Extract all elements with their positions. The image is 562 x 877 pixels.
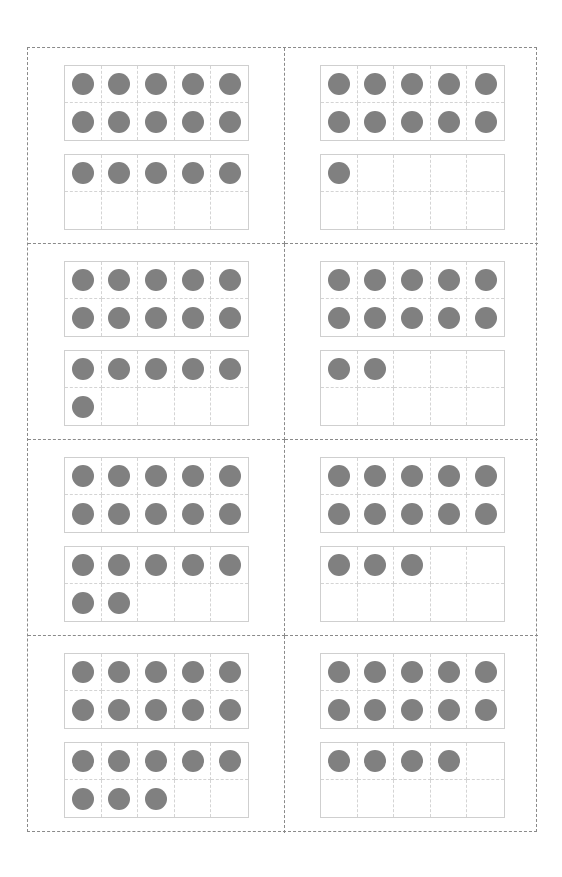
counter-dot-icon <box>219 750 241 772</box>
counter-dot-icon <box>401 307 423 329</box>
ten-frame-cell <box>358 743 395 780</box>
counter-dot-icon <box>145 162 167 184</box>
ten-frame-cell <box>321 66 358 103</box>
ten-frame-cell <box>65 495 102 532</box>
ten-frame-cell <box>321 299 358 336</box>
ten-frame-cell <box>394 743 431 780</box>
counter-dot-icon <box>328 358 350 380</box>
counter-dot-icon <box>364 699 386 721</box>
ten-frame <box>320 154 505 230</box>
ten-frame-cell <box>175 780 212 817</box>
ten-frame-cell <box>467 103 504 140</box>
ten-frame <box>320 457 505 533</box>
ten-frame-cell <box>65 351 102 388</box>
ten-frame-cell <box>102 495 139 532</box>
counter-dot-icon <box>219 111 241 133</box>
counter-dot-icon <box>364 269 386 291</box>
ten-frame-card <box>285 636 538 833</box>
ten-frame-cell <box>431 299 468 336</box>
counter-dot-icon <box>108 269 130 291</box>
counter-dot-icon <box>438 307 460 329</box>
ten-frame-cell <box>138 351 175 388</box>
counter-dot-icon <box>108 503 130 525</box>
counter-dot-icon <box>219 503 241 525</box>
ten-frame-cell <box>321 155 358 192</box>
ten-frame-cell <box>211 743 248 780</box>
ten-frame-cell <box>211 262 248 299</box>
counter-dot-icon <box>145 661 167 683</box>
ten-frame-cell <box>138 66 175 103</box>
counter-dot-icon <box>364 503 386 525</box>
counter-dot-icon <box>438 73 460 95</box>
counter-dot-icon <box>72 699 94 721</box>
ten-frame-cell <box>467 780 504 817</box>
ten-frame-cell <box>211 584 248 621</box>
ten-frame-cell <box>175 155 212 192</box>
counter-dot-icon <box>145 788 167 810</box>
counter-dot-icon <box>328 750 350 772</box>
counter-dot-icon <box>438 699 460 721</box>
ten-frame-cell <box>211 103 248 140</box>
ten-frame-cell <box>431 155 468 192</box>
ten-frame-cell <box>321 654 358 691</box>
counter-dot-icon <box>108 73 130 95</box>
counter-dot-icon <box>182 465 204 487</box>
ten-frame-cell <box>102 584 139 621</box>
ten-frame-cell <box>65 547 102 584</box>
ten-frame-cell <box>431 780 468 817</box>
ten-frame-card <box>285 244 538 440</box>
ten-frame-cell <box>175 584 212 621</box>
counter-dot-icon <box>438 661 460 683</box>
ten-frame-cell <box>211 547 248 584</box>
counter-dot-icon <box>438 111 460 133</box>
counter-dot-icon <box>219 307 241 329</box>
counter-dot-icon <box>328 162 350 184</box>
ten-frame-cell <box>358 299 395 336</box>
ten-frame-cell <box>321 351 358 388</box>
ten-frame-cell <box>321 103 358 140</box>
counter-dot-icon <box>364 111 386 133</box>
counter-dot-icon <box>182 358 204 380</box>
counter-dot-icon <box>108 661 130 683</box>
counter-dot-icon <box>145 358 167 380</box>
counter-dot-icon <box>401 661 423 683</box>
ten-frame-cell <box>358 691 395 728</box>
counter-dot-icon <box>475 73 497 95</box>
counter-dot-icon <box>145 750 167 772</box>
ten-frame <box>320 350 505 426</box>
ten-frame-cell <box>467 654 504 691</box>
counter-dot-icon <box>72 465 94 487</box>
ten-frame-cell <box>321 495 358 532</box>
ten-frame-cell <box>467 192 504 229</box>
ten-frame-cell <box>211 155 248 192</box>
counter-dot-icon <box>182 554 204 576</box>
counter-dot-icon <box>72 111 94 133</box>
counter-dot-icon <box>438 503 460 525</box>
counter-dot-icon <box>182 750 204 772</box>
counter-dot-icon <box>72 307 94 329</box>
ten-frame-cell <box>138 103 175 140</box>
ten-frame-cell <box>175 691 212 728</box>
counter-dot-icon <box>182 269 204 291</box>
counter-dot-icon <box>219 661 241 683</box>
ten-frame-cell <box>467 262 504 299</box>
ten-frame-cell <box>211 458 248 495</box>
counter-dot-icon <box>108 554 130 576</box>
ten-frame-cell <box>431 584 468 621</box>
ten-frame-cell <box>467 691 504 728</box>
ten-frame <box>64 261 249 337</box>
counter-dot-icon <box>438 269 460 291</box>
counter-dot-icon <box>108 750 130 772</box>
counter-dot-icon <box>219 358 241 380</box>
ten-frame-cell <box>467 66 504 103</box>
ten-frame-cell <box>467 351 504 388</box>
counter-dot-icon <box>108 465 130 487</box>
ten-frame-cell <box>211 654 248 691</box>
counter-dot-icon <box>72 269 94 291</box>
counter-dot-icon <box>475 699 497 721</box>
ten-frame-cell <box>65 654 102 691</box>
ten-frame-cell <box>431 103 468 140</box>
counter-dot-icon <box>72 554 94 576</box>
ten-frame-cell <box>467 547 504 584</box>
ten-frame-cell <box>175 351 212 388</box>
